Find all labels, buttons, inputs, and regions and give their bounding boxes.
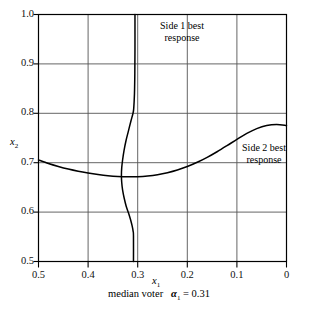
y-tick-label: 0.8: [2, 106, 34, 117]
annotation-side-2-line2: response: [247, 154, 282, 165]
curve-side-1-best-response: [121, 15, 135, 262]
y-tick-label: 0.5: [2, 255, 34, 266]
curves-group: [39, 15, 287, 262]
caption-alpha-subscript: 1: [177, 294, 181, 302]
gridlines-group: [39, 15, 287, 262]
x-tick-label: 0.5: [24, 269, 54, 280]
y-axis-title: x2: [10, 136, 18, 150]
figure-container: 0.50.60.70.80.91.0 0.50.40.30.20.10 x2 x…: [0, 0, 318, 311]
annotation-side-2-best-response: Side 2 best response: [218, 142, 310, 165]
annotation-side-2-line1: Side 2 best: [242, 142, 286, 153]
figure-caption: median voter α1 = 0.31: [0, 288, 318, 302]
x-axis-title: x1: [152, 275, 160, 289]
caption-median-voter-text: median voter: [108, 288, 163, 299]
caption-alpha-value: = 0.31: [183, 288, 210, 299]
y-tick-label: 0.7: [2, 156, 34, 167]
x-tick-label: 0.4: [73, 269, 103, 280]
annotation-side-1-line2: response: [165, 32, 200, 43]
y-tick-label: 0.9: [2, 57, 34, 68]
plot-frame: [39, 15, 287, 262]
x-tick-label: 0.1: [222, 269, 252, 280]
tick-marks-group: [34, 15, 287, 268]
y-tick-label: 0.6: [2, 205, 34, 216]
y-tick-label: 1.0: [2, 8, 34, 19]
x-tick-label: 0: [272, 269, 302, 280]
x-tick-label: 0.2: [172, 269, 202, 280]
annotation-side-1-best-response: Side 1 best response: [133, 20, 231, 43]
annotation-side-1-line1: Side 1 best: [160, 20, 204, 31]
x-tick-label: 0.3: [123, 269, 153, 280]
